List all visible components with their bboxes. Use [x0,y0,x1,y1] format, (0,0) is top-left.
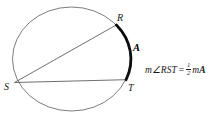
point-label-t: T [128,82,135,93]
formula-lhs: m∠RST [145,64,177,75]
circle-outline [13,7,131,111]
point-label-s: S [4,81,9,92]
chord-st [15,80,127,83]
intercepted-arc-rt [116,25,131,80]
angle-formula: m∠RST = 1 2 m A [145,62,206,77]
fraction-denominator: 2 [186,70,191,77]
formula-equals: = [177,65,186,75]
geometry-figure: R S T A m∠RST = 1 2 m A [0,0,222,117]
formula-fraction: 1 2 [186,62,191,77]
point-label-r: R [116,12,123,23]
arc-label-a: A [132,42,140,53]
chord-sr [15,25,117,83]
formula-arc-a: A [199,65,205,75]
inscribed-angle-diagram: R S T A [0,0,222,117]
